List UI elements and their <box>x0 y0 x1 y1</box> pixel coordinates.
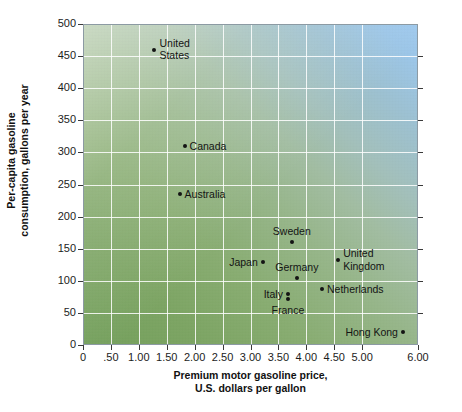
y-axis-tick <box>78 313 83 314</box>
data-point <box>178 192 182 196</box>
data-point-label: Japan <box>229 255 258 267</box>
gridline-horizontal <box>83 185 418 186</box>
x-axis-tick <box>83 345 84 350</box>
x-axis-tick <box>251 345 252 350</box>
y-axis-tick-label: 300 <box>58 146 76 157</box>
gridline-horizontal <box>83 313 418 314</box>
data-point <box>295 276 299 280</box>
data-point-label: Australia <box>185 188 226 200</box>
gridline-horizontal <box>83 152 418 153</box>
data-point-label: Sweden <box>273 225 311 237</box>
y-axis-tick-right <box>418 56 423 57</box>
x-axis-tick <box>167 345 168 350</box>
y-axis-tick <box>78 152 83 153</box>
x-axis-title-line-1: Premium motor gasoline price, <box>83 369 418 382</box>
x-axis-tick-label: 6.00 <box>407 352 428 363</box>
data-point <box>183 144 187 148</box>
plot-area: UnitedStatesCanadaAustraliaSwedenJapanUn… <box>83 24 418 345</box>
y-axis-tick <box>78 120 83 121</box>
x-axis-tick-label: 2.00 <box>184 352 205 363</box>
x-axis-tick <box>418 345 419 350</box>
y-axis-tick-label: 150 <box>58 243 76 254</box>
data-point-label: Germany <box>275 260 318 272</box>
gridline-horizontal <box>83 88 418 89</box>
x-axis-tick-label: 5.00 <box>351 352 372 363</box>
y-axis-tick-right <box>418 185 423 186</box>
y-axis-tick <box>78 217 83 218</box>
x-axis-tick-label: 1.50 <box>156 352 177 363</box>
y-axis-tick-right <box>418 88 423 89</box>
y-axis-tick-label: 50 <box>64 307 76 318</box>
data-point-label: Canada <box>190 140 227 152</box>
gridline-horizontal <box>83 56 418 57</box>
y-axis-tick-label: 400 <box>58 82 76 93</box>
scatter-chart-figure: Per-capita gasoline consumption, gallons… <box>0 0 462 412</box>
data-point-label: Italy <box>264 287 283 299</box>
y-axis-tick-label: 500 <box>58 18 76 29</box>
x-axis-tick <box>278 345 279 350</box>
data-point <box>286 297 290 301</box>
gridline-horizontal <box>83 120 418 121</box>
x-axis-tick <box>306 345 307 350</box>
x-axis-tick-label: 3.50 <box>268 352 289 363</box>
x-axis-tick-label: 2.50 <box>212 352 233 363</box>
y-axis-tick <box>78 185 83 186</box>
x-axis-tick-label: 0 <box>80 352 86 363</box>
data-point-label: Netherlands <box>327 282 384 294</box>
y-axis-tick-right <box>418 249 423 250</box>
x-axis-title: Premium motor gasoline price, U.S. dolla… <box>83 369 418 395</box>
x-axis-tick-label: 4.50 <box>324 352 345 363</box>
data-point-label: UnitedStates <box>159 36 189 61</box>
y-axis-tick-right <box>418 152 423 153</box>
y-axis-tick <box>78 281 83 282</box>
data-point-label: UnitedKingdom <box>343 247 384 272</box>
x-axis-tick-label: 1.00 <box>128 352 149 363</box>
x-axis-tick <box>334 345 335 350</box>
data-point-label: Hong Kong <box>345 326 398 338</box>
data-point <box>261 260 265 264</box>
x-axis-tick <box>223 345 224 350</box>
x-axis-tick <box>195 345 196 350</box>
x-axis-tick <box>111 345 112 350</box>
y-axis-title-line-1: Per-capita gasoline <box>5 84 18 236</box>
y-axis-title-line-2: consumption, gallons per year <box>18 84 31 236</box>
x-axis-tick-label: 3.00 <box>240 352 261 363</box>
y-axis-tick-label: 0 <box>70 339 76 350</box>
y-axis-tick-right <box>418 313 423 314</box>
x-axis-tick <box>139 345 140 350</box>
gridline-horizontal <box>83 24 418 25</box>
x-axis-tick-label: .50 <box>103 352 118 363</box>
y-axis-tick-label: 450 <box>58 50 76 61</box>
y-axis-tick-label: 350 <box>58 114 76 125</box>
y-axis-tick-label: 100 <box>58 275 76 286</box>
y-axis-tick-right <box>418 217 423 218</box>
y-axis-tick-right <box>418 281 423 282</box>
data-point <box>320 287 324 291</box>
data-point <box>286 292 290 296</box>
data-point-label: France <box>272 304 305 316</box>
y-axis-title: Per-capita gasoline consumption, gallons… <box>6 0 30 321</box>
y-axis-tick <box>78 56 83 57</box>
y-axis-tick <box>78 88 83 89</box>
x-axis-tick <box>362 345 363 350</box>
y-axis-tick-right <box>418 120 423 121</box>
y-axis-tick-label: 250 <box>58 179 76 190</box>
y-axis-tick <box>78 24 83 25</box>
y-axis-tick <box>78 249 83 250</box>
x-axis-tick-label: 4.00 <box>296 352 317 363</box>
y-axis-tick-label: 200 <box>58 211 76 222</box>
gridline-horizontal <box>83 217 418 218</box>
x-axis-title-line-2: U.S. dollars per gallon <box>83 382 418 395</box>
